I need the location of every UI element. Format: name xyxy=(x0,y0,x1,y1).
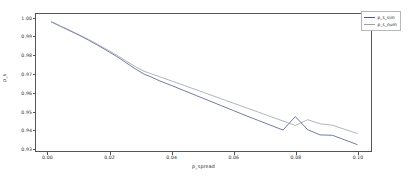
legend-line-icon xyxy=(364,17,375,18)
series-line xyxy=(51,22,357,145)
x-tick-label: 0.06 xyxy=(228,155,239,160)
y-tick-label: 0.97 xyxy=(21,72,32,77)
y-tick-label: 0.95 xyxy=(21,109,32,114)
y-axis-tick-labels: 1.000.990.980.970.960.950.940.93 xyxy=(0,13,32,152)
x-tick-label: 0.02 xyxy=(104,155,115,160)
x-tick-label: 0.08 xyxy=(291,155,302,160)
x-tick-label: 0.10 xyxy=(353,155,364,160)
series-lines xyxy=(36,14,371,151)
y-tick-label: 0.96 xyxy=(21,90,32,95)
y-tick-label: 0.98 xyxy=(21,53,32,58)
y-tick-label: 0.93 xyxy=(21,147,32,152)
x-tick-label: 0.04 xyxy=(166,155,177,160)
legend-label: p_s_sim xyxy=(378,15,395,20)
y-axis-label: p_s xyxy=(2,74,7,82)
y-tick-label: 0.99 xyxy=(21,34,32,39)
legend-line-icon xyxy=(364,24,375,25)
chart-legend: p_s_simp_s_num xyxy=(361,11,401,31)
series-line xyxy=(51,22,357,134)
y-tick-label: 1.00 xyxy=(21,15,32,20)
plot-area xyxy=(35,13,372,152)
y-tick-label: 0.94 xyxy=(21,128,32,133)
chart-figure: 1.000.990.980.970.960.950.940.93 0.000.0… xyxy=(0,0,414,179)
legend-item[interactable]: p_s_num xyxy=(364,22,397,28)
legend-label: p_s_num xyxy=(378,22,397,27)
x-tick-label: 0.00 xyxy=(42,155,53,160)
legend-item[interactable]: p_s_sim xyxy=(364,14,397,20)
x-axis-label: p_spread xyxy=(35,164,372,169)
